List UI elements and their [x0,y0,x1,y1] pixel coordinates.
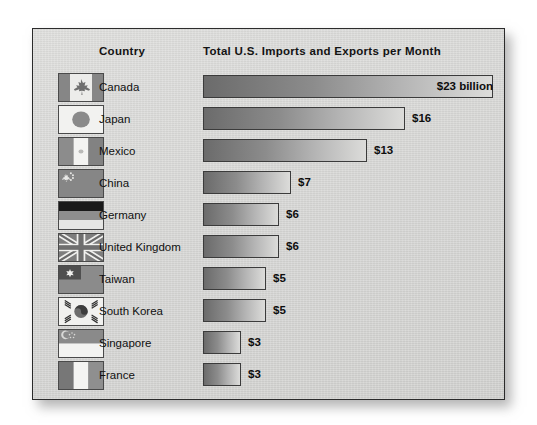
country-label: Taiwan [99,273,135,285]
bar-value-label: $23 billion [437,80,493,92]
bar-track: $3 [203,331,500,355]
bar-track: $5 [203,299,500,323]
table-row: Japan$16 [33,104,504,136]
table-row: United Kingdom$6 [33,232,504,264]
country-label: Japan [99,113,130,125]
table-row: China$7 [33,168,504,200]
country-label: China [99,177,129,189]
bar-track: $6 [203,203,500,227]
country-label: Canada [99,81,139,93]
column-header-metric: Total U.S. Imports and Exports per Month [203,45,441,57]
flag-mexico-icon [58,137,104,166]
bar-value-label: $6 [286,240,299,252]
table-row: Canada$23 billion [33,72,504,104]
bar-value-label: $13 [374,144,393,156]
flag-united-kingdom-icon [58,233,104,262]
bar [203,267,266,290]
bar-track: $3 [203,363,500,387]
bar [203,331,241,354]
bar-track: $16 [203,107,500,131]
country-label: Singapore [99,337,151,349]
bar-value-label: $7 [298,176,311,188]
bar-track: $13 [203,139,500,163]
flag-france-icon [58,361,104,390]
country-label: Germany [99,209,146,221]
country-label: South Korea [99,305,163,317]
bar-value-label: $6 [286,208,299,220]
column-header-country: Country [99,45,145,57]
flag-canada-icon [58,73,104,102]
bar-value-label: $3 [248,368,261,380]
bar [203,139,367,162]
table-row: Singapore$3 [33,328,504,360]
flag-south-korea-icon [58,297,104,326]
bar [203,299,266,322]
bar-track: $23 billion [203,75,500,99]
table-row: Taiwan$5 [33,264,504,296]
chart-panel: Country Total U.S. Imports and Exports p… [32,28,505,400]
table-row: Mexico$13 [33,136,504,168]
table-row: France$3 [33,360,504,392]
bar [203,363,241,386]
bar [203,235,279,258]
bar-track: $5 [203,267,500,291]
flag-singapore-icon [58,329,104,358]
bar-track: $7 [203,171,500,195]
bar-value-label: $16 [412,112,431,124]
country-label: Mexico [99,145,135,157]
bar-value-label: $5 [273,272,286,284]
bar-value-label: $3 [248,336,261,348]
flag-japan-icon [58,105,104,134]
table-row: South Korea$5 [33,296,504,328]
bar [203,171,291,194]
table-row: Germany$6 [33,200,504,232]
bar-value-label: $5 [273,304,286,316]
bar-track: $6 [203,235,500,259]
country-label: United Kingdom [99,241,181,253]
flag-china-icon [58,169,104,198]
bar [203,203,279,226]
country-label: France [99,369,135,381]
flag-germany-icon [58,201,104,230]
flag-taiwan-icon [58,265,104,294]
bar [203,107,405,130]
